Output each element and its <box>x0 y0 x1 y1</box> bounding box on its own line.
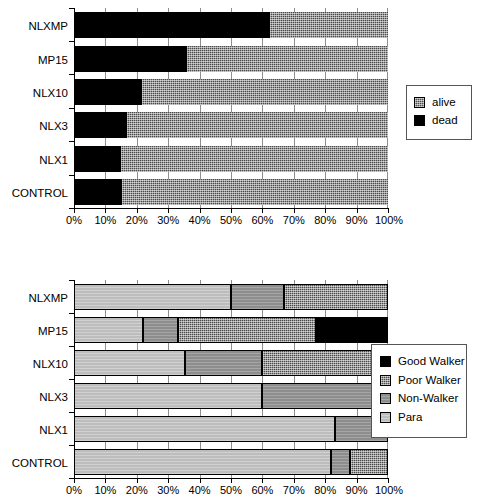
mobility-ytick <box>69 280 75 281</box>
survival-bar-nlx10 <box>74 79 388 105</box>
legend-item-alive: alive <box>414 97 465 109</box>
survival-xtick <box>74 208 75 213</box>
survival-gridlines <box>74 8 388 208</box>
mobility-legend: Good Walker Poor Walker Non-Walker Para <box>371 344 467 438</box>
mobility-xtick <box>231 478 232 483</box>
mobility-xtick-label: 0% <box>66 485 82 496</box>
mobility-segment-poor-walker <box>178 317 316 343</box>
mobility-segment-poor-walker <box>262 350 372 376</box>
mobility-ytick <box>69 313 75 314</box>
mobility-ytick <box>69 445 75 446</box>
mobility-segment-non-walker <box>231 284 284 310</box>
dead-swatch-icon <box>414 115 425 126</box>
survival-xtick <box>105 208 106 213</box>
alive-swatch-icon <box>414 97 425 108</box>
survival-category-label-nlx1: NLX1 <box>0 155 68 167</box>
survival-xtick-label: 100% <box>375 215 403 226</box>
mobility-xtick <box>74 478 75 483</box>
mobility-xtick-label: 50% <box>220 485 242 496</box>
survival-xtick-label: 90% <box>346 215 368 226</box>
survival-ytick <box>69 141 75 142</box>
mobility-segment-good-walker <box>316 317 388 343</box>
legend-label-good-walker: Good Walker <box>398 356 465 368</box>
legend-item-para: Para <box>380 412 461 424</box>
survival-ytick <box>69 41 75 42</box>
survival-xtick <box>168 208 169 213</box>
survival-xtick <box>294 208 295 213</box>
survival-segment-dead <box>74 179 122 205</box>
para-swatch-icon <box>380 412 391 423</box>
mobility-xtick <box>137 478 138 483</box>
survival-segment-alive <box>122 179 388 205</box>
mobility-xtick <box>262 478 263 483</box>
survival-category-label-nlx3: NLX3 <box>0 121 68 133</box>
survival-xtick <box>357 208 358 213</box>
mobility-segment-non-walker <box>262 383 388 409</box>
mobility-segment-para <box>74 449 331 475</box>
survival-xtick <box>200 208 201 213</box>
survival-ytick <box>69 175 75 176</box>
mobility-segment-non-walker <box>185 350 262 376</box>
survival-segment-dead <box>74 146 121 172</box>
non-walker-swatch-icon <box>380 393 391 404</box>
mobility-category-label-nlx10: NLX10 <box>0 359 68 371</box>
mobility-bar-mp15 <box>74 317 388 343</box>
mobility-segment-non-walker <box>331 449 350 475</box>
survival-xtick-label: 70% <box>283 215 305 226</box>
survival-bar-nlx3 <box>74 112 388 138</box>
survival-segment-alive <box>127 112 388 138</box>
legend-item-poor-walker: Poor Walker <box>380 375 461 387</box>
legend-label-non-walker: Non-Walker <box>398 393 458 405</box>
mobility-segment-non-walker <box>143 317 178 343</box>
survival-segment-dead <box>74 112 127 138</box>
survival-xtick-label: 50% <box>220 215 242 226</box>
survival-category-label-nlxmp: NLXMP <box>0 21 68 33</box>
survival-segment-dead <box>74 46 187 72</box>
legend-label-dead: dead <box>432 115 458 127</box>
mobility-bar-control <box>74 449 388 475</box>
mobility-category-label-mp15: MP15 <box>0 326 68 338</box>
survival-xtick-label: 60% <box>251 215 273 226</box>
survival-ytick <box>69 8 75 9</box>
survival-segment-alive <box>142 79 388 105</box>
survival-bar-nlxmp <box>74 12 388 38</box>
survival-bar-nlx1 <box>74 146 388 172</box>
survival-segment-dead <box>74 12 270 38</box>
mobility-category-label-nlxmp: NLXMP <box>0 293 68 305</box>
survival-xtick-label: 80% <box>314 215 336 226</box>
survival-ytick <box>69 108 75 109</box>
mobility-xtick <box>168 478 169 483</box>
mobility-segment-poor-walker <box>350 449 388 475</box>
mobility-xtick <box>325 478 326 483</box>
legend-item-non-walker: Non-Walker <box>380 393 461 405</box>
mobility-ytick <box>69 346 75 347</box>
mobility-segment-para <box>74 284 231 310</box>
survival-xtick-label: 20% <box>126 215 148 226</box>
mobility-xtick <box>357 478 358 483</box>
mobility-ytick <box>69 412 75 413</box>
survival-segment-alive <box>187 46 388 72</box>
legend-label-poor-walker: Poor Walker <box>398 375 461 387</box>
survival-bar-mp15 <box>74 46 388 72</box>
survival-segment-alive <box>270 12 388 38</box>
mobility-xtick-label: 10% <box>94 485 116 496</box>
mobility-xtick-label: 90% <box>346 485 368 496</box>
mobility-bar-nlx10 <box>74 350 388 376</box>
survival-xtick-label: 0% <box>66 215 82 226</box>
survival-xtick-label: 30% <box>157 215 179 226</box>
mobility-xtick <box>105 478 106 483</box>
mobility-category-label-nlx3: NLX3 <box>0 392 68 404</box>
mobility-ytick <box>69 379 75 380</box>
survival-xtick-label: 40% <box>189 215 211 226</box>
survival-bar-control <box>74 179 388 205</box>
mobility-bar-nlx3 <box>74 383 388 409</box>
mobility-xtick <box>388 478 389 483</box>
poor-walker-swatch-icon <box>380 375 391 386</box>
mobility-xtick-label: 80% <box>314 485 336 496</box>
mobility-category-label-nlx1: NLX1 <box>0 425 68 437</box>
mobility-xtick-label: 20% <box>126 485 148 496</box>
mobility-bar-nlx1 <box>74 416 388 442</box>
survival-category-label-mp15: MP15 <box>0 55 68 67</box>
legend-item-dead: dead <box>414 115 465 127</box>
survival-xtick <box>262 208 263 213</box>
